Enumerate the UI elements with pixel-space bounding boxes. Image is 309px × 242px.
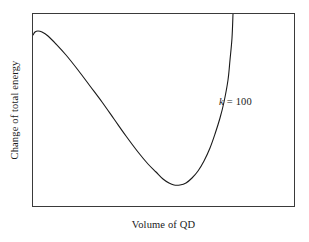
figure-root: k = 100 Change of total energy Volume of… — [0, 0, 309, 242]
plot-frame — [32, 13, 295, 207]
curve-annotation-equals: = — [224, 96, 236, 107]
x-axis-title: Volume of QD — [32, 219, 295, 230]
curve-annotation-value: 100 — [236, 96, 252, 107]
y-axis-title-container: Change of total energy — [0, 13, 28, 207]
y-axis-title: Change of total energy — [9, 60, 20, 159]
curve-annotation-k-value: k = 100 — [219, 96, 252, 107]
